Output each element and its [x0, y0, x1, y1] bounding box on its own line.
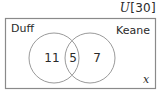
region-only-duff-value: 11 [44, 51, 59, 65]
region-outside-value: x [143, 74, 149, 86]
set-label-keane: Keane [116, 24, 150, 37]
venn-diagram [0, 0, 162, 95]
set-label-duff: Duff [11, 22, 34, 35]
region-only-keane-value: 7 [93, 51, 101, 65]
region-intersection-value: 5 [69, 51, 77, 65]
